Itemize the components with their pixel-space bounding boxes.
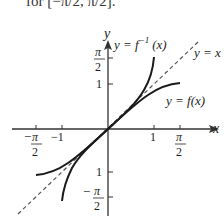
function-curve-label: y = f(x) bbox=[164, 93, 205, 108]
y-tick-pi-over-2: π 2 bbox=[94, 45, 105, 74]
identity-line-label: y = x bbox=[192, 45, 221, 60]
svg-text:π: π bbox=[95, 45, 102, 59]
x-axis-label: x bbox=[212, 121, 220, 136]
svg-text:2: 2 bbox=[176, 145, 182, 159]
x-axis bbox=[12, 125, 219, 133]
x-tick-pi-over-2: π 2 bbox=[175, 130, 186, 159]
y-tick-1: 1 bbox=[96, 77, 102, 91]
x-tick-neg-pi-over-2: − π 2 bbox=[24, 129, 42, 159]
inverse-function-graph: y x − π 2 −1 1 π 2 π 2 1 1 − π 2 y = f−1… bbox=[0, 0, 224, 218]
svg-text:π: π bbox=[32, 130, 39, 144]
svg-text:−: − bbox=[24, 129, 31, 144]
svg-text:2: 2 bbox=[95, 60, 101, 74]
svg-text:y = f−1(x): y = f−1(x) bbox=[112, 35, 167, 52]
inverse-curve-label: y = f−1(x) bbox=[112, 35, 167, 52]
svg-text:−: − bbox=[83, 184, 90, 199]
x-tick-1: 1 bbox=[150, 130, 156, 144]
svg-text:2: 2 bbox=[32, 145, 38, 159]
y-tick-neg-pi-over-2: − π 2 bbox=[83, 184, 104, 213]
y-tick-neg-1: 1 bbox=[96, 165, 102, 179]
svg-text:π: π bbox=[176, 130, 183, 144]
y-axis-label: y bbox=[102, 26, 111, 41]
x-tick-neg-1: −1 bbox=[51, 130, 64, 144]
svg-text:π: π bbox=[94, 184, 101, 198]
svg-text:2: 2 bbox=[94, 199, 100, 213]
